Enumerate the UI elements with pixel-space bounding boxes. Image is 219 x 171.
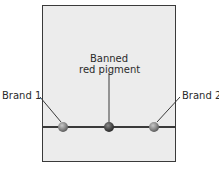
banned-pigment-label-line-1: Banned	[79, 53, 139, 64]
brand-1-leader-line	[40, 97, 61, 122]
leader-lines-and-spots	[0, 0, 219, 171]
brand-1-label: Brand 1	[2, 90, 41, 101]
banned-red-pigment-spot	[104, 122, 114, 132]
banned-pigment-label-line-2: red pigment	[79, 64, 139, 75]
brand-2-leader-line	[157, 97, 180, 122]
banned-pigment-label: Banned red pigment	[79, 53, 139, 75]
brand-2-label: Brand 2	[182, 90, 219, 101]
brand-2-spot	[149, 122, 159, 132]
brand-1-spot	[58, 122, 68, 132]
